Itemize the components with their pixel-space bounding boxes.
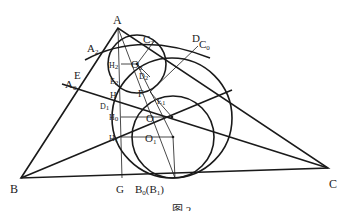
triangle-abc [21, 28, 328, 178]
line-f-d [150, 46, 198, 92]
figure-caption: 图 2 [172, 204, 191, 211]
label-h2: H2 [109, 61, 119, 71]
label-d2: D2 [139, 72, 149, 82]
label-o: O [146, 112, 154, 124]
label-o1: O1 [145, 132, 157, 146]
label-e: E [74, 69, 81, 81]
label-e1: E1 [157, 97, 166, 107]
label-f: F [138, 88, 144, 99]
label-h0: H0 [109, 113, 119, 123]
point-o [171, 116, 174, 119]
line-o1-b1 [173, 137, 175, 178]
line-a-b0 [118, 28, 175, 178]
label-a2: A2 [87, 42, 99, 56]
label-a: A [113, 13, 122, 27]
label-b0-b1: B0(B1) [135, 183, 164, 197]
label-c2: C2 [143, 33, 154, 47]
line-e-c [62, 84, 328, 168]
label-c: C [329, 177, 337, 191]
point-o1 [172, 136, 175, 139]
label-h1: H1 [109, 134, 119, 144]
label-h: H [110, 90, 117, 100]
label-o2: O2 [131, 58, 143, 72]
label-d1: D1 [100, 102, 110, 112]
label-e2: E2 [110, 77, 119, 87]
label-c0: C0 [199, 38, 210, 52]
geometry-figure: A B C A2 C2 D C0 E A0 H2 O2 E2 D2 H F D1… [0, 0, 348, 211]
line-b-e1 [21, 90, 232, 178]
label-g: G [116, 183, 124, 195]
label-b: B [10, 182, 18, 196]
